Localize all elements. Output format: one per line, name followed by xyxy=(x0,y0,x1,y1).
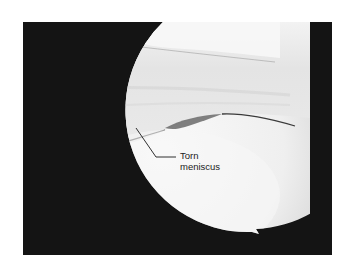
annotation-line-1: Torn xyxy=(180,150,220,161)
annotation-label: Torn meniscus xyxy=(180,150,220,172)
annotation-line-2: meniscus xyxy=(180,161,220,172)
arthroscopic-image xyxy=(0,0,352,270)
